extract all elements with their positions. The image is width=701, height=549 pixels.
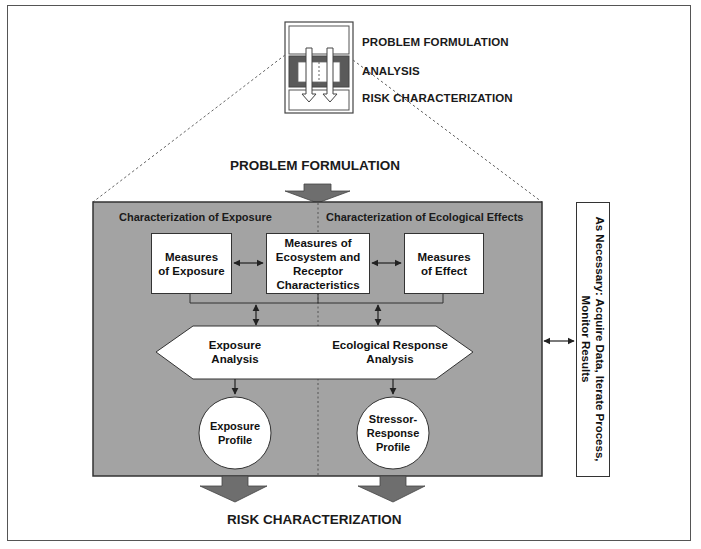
exposure-analysis-text: Exposure Analysis: [200, 338, 270, 366]
section-characterization-ecological-effects: Characterization of Ecological Effects: [326, 211, 523, 223]
problem-formulation-label: PROBLEM FORMULATION: [230, 158, 400, 173]
risk-characterization-label: RISK CHARACTERIZATION: [227, 512, 402, 527]
measures-of-exposure-box: Measures of Exposure: [151, 233, 232, 294]
bottom-arrow-left-icon: [200, 476, 267, 502]
legend-problem-formulation: PROBLEM FORMULATION: [362, 36, 509, 48]
ecological-response-analysis-text: Ecological Response Analysis: [325, 338, 455, 366]
exposure-profile-text: Exposure Profile: [203, 405, 267, 461]
measures-of-exposure-text: Measures of Exposure: [158, 250, 225, 278]
iterate-process-text: As Necessary: Acquire Data, Iterate Proc…: [579, 209, 607, 469]
measures-of-ecosystem-box: Measures of Ecosystem and Receptor Chara…: [266, 233, 370, 294]
legend-analysis: ANALYSIS: [362, 65, 420, 77]
measures-of-effect-box: Measures of Effect: [404, 233, 484, 294]
bottom-arrow-right-icon: [358, 476, 425, 502]
top-arrow-icon: [285, 184, 350, 203]
stressor-response-profile-text: Stressor-Response Profile: [360, 405, 426, 461]
legend-risk-characterization: RISK CHARACTERIZATION: [362, 92, 513, 104]
measures-of-effect-text: Measures of Effect: [415, 250, 473, 278]
legend-icon: [285, 22, 353, 113]
measures-of-ecosystem-text: Measures of Ecosystem and Receptor Chara…: [271, 236, 365, 292]
zoom-line-right: [353, 60, 542, 202]
section-characterization-exposure: Characterization of Exposure: [119, 211, 272, 223]
zoom-line-left: [93, 55, 285, 202]
